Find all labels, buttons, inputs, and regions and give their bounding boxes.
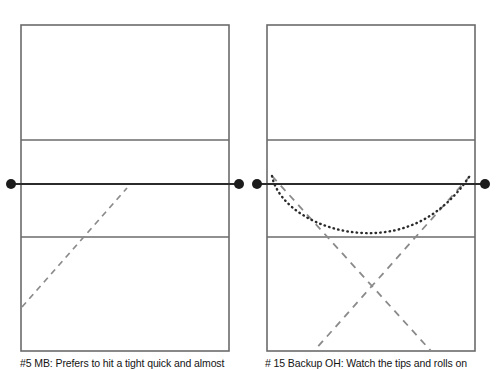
court-panel-left: #5 MB: Prefers to hit a tight quick and … (0, 0, 248, 370)
court-diagram-left (0, 0, 248, 356)
court-panel-right: # 15 Backup OH: Watch the tips and rolls… (248, 0, 496, 370)
court-outline-right (267, 25, 475, 351)
net-antenna-right-icon (234, 179, 244, 189)
net-antenna-left-icon (252, 179, 262, 189)
court-outline-left (21, 25, 229, 351)
page-root: #5 MB: Prefers to hit a tight quick and … (0, 0, 496, 370)
net-antenna-right-icon (480, 179, 490, 189)
caption-left: #5 MB: Prefers to hit a tight quick and … (0, 357, 268, 370)
caption-right: # 15 Backup OH: Watch the tips and rolls… (248, 357, 496, 370)
net-antenna-left-icon (6, 179, 16, 189)
court-diagram-right (248, 0, 496, 356)
